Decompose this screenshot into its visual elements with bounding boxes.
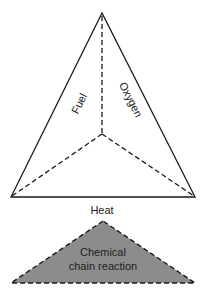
- heat-label: Heat: [90, 204, 113, 216]
- outer-triangle: [11, 13, 195, 197]
- chain-reaction-label: chain reaction: [69, 260, 138, 272]
- tetrahedron-top: Fuel Oxygen Heat: [11, 13, 195, 216]
- diagram-svg: Fuel Oxygen Heat Chemical chain reaction: [0, 0, 202, 293]
- chain-reaction-base: Chemical chain reaction: [11, 221, 195, 283]
- chemical-label: Chemical: [80, 246, 126, 258]
- fire-tetrahedron-diagram: Fuel Oxygen Heat Chemical chain reaction: [0, 0, 202, 293]
